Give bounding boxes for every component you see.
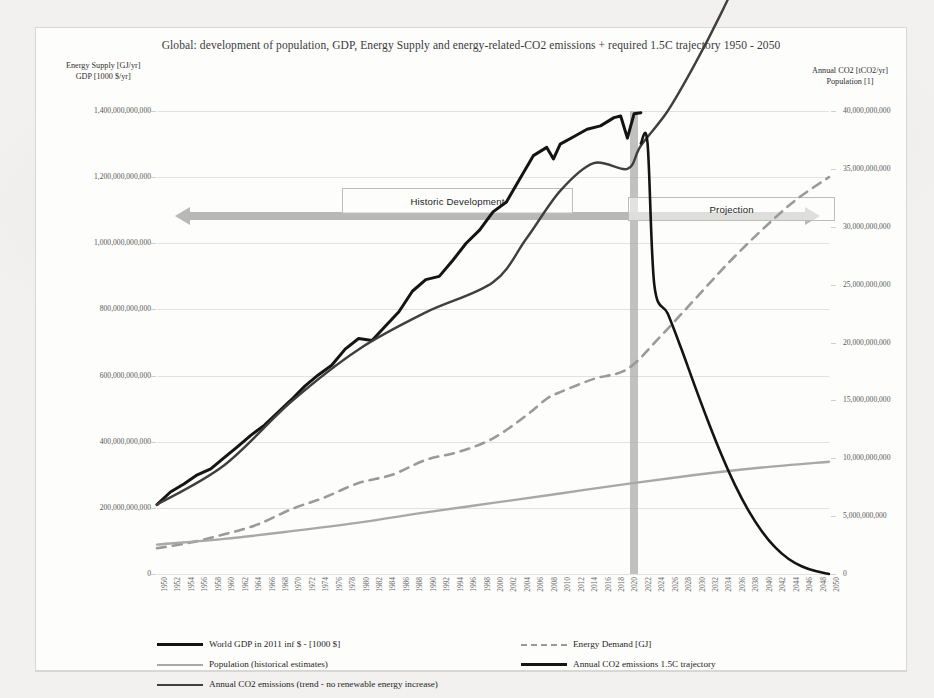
left-tick-label: 600,000,000,000 <box>46 371 151 380</box>
x-tick-label: 1976 <box>335 577 344 592</box>
x-tick-label: 1956 <box>200 577 209 592</box>
right-tick-label: 0 <box>843 569 847 578</box>
legend-item-gdp: World GDP in 2011 inf $ - [1000 $] <box>157 640 340 649</box>
legend-label-co2-15c: Annual CO2 emissions 1.5C trajectory <box>573 660 716 669</box>
legend-item-co2-15c: Annual CO2 emissions 1.5C trajectory <box>521 660 716 669</box>
x-tick-label: 1974 <box>321 577 330 592</box>
left-tick-mark <box>151 442 156 443</box>
x-tick-label: 1992 <box>442 577 451 592</box>
legend-label-population: Population (historical estimates) <box>209 660 328 669</box>
card-bottom-divider <box>36 670 906 671</box>
x-tick-label: 1954 <box>187 577 196 592</box>
x-tick-label: 2038 <box>751 577 760 592</box>
right-tick-label: 10,000,000,000 <box>843 453 890 462</box>
x-tick-label: 2042 <box>778 577 787 592</box>
x-tick-label: 2032 <box>711 577 720 592</box>
right-tick-mark <box>831 574 836 575</box>
series-lines <box>157 111 829 574</box>
series-co2-15c-trajectory <box>641 133 829 574</box>
x-tick-label: 2040 <box>765 577 774 592</box>
right-tick-mark <box>831 458 836 459</box>
left-axis-caption-line2: GDP [1000 $/yr] <box>66 71 140 82</box>
x-tick-label: 1962 <box>241 577 250 592</box>
x-tick-label: 2008 <box>550 577 559 592</box>
x-tick-label: 1958 <box>214 577 223 592</box>
right-tick-label: 35,000,000,000 <box>843 164 890 173</box>
x-tick-label: 2044 <box>792 577 801 592</box>
gridline <box>157 574 829 575</box>
x-tick-label: 2048 <box>819 577 828 592</box>
x-tick-label: 2000 <box>496 577 505 592</box>
x-tick-label: 2036 <box>738 577 747 592</box>
x-tick-label: 2010 <box>563 577 572 592</box>
x-tick-label: 2018 <box>617 577 626 592</box>
x-tick-label: 1998 <box>483 577 492 592</box>
x-tick-label: 2026 <box>671 577 680 592</box>
left-tick-label: 1,400,000,000,000 <box>46 106 151 115</box>
x-tick-label: 1980 <box>362 577 371 592</box>
x-tick-label: 2020 <box>630 577 639 592</box>
x-tick-label: 1990 <box>429 577 438 592</box>
left-tick-mark <box>151 574 156 575</box>
right-tick-label: 30,000,000,000 <box>843 222 890 231</box>
x-tick-label: 1986 <box>402 577 411 592</box>
x-tick-label: 1966 <box>268 577 277 592</box>
chart-card: Global: development of population, GDP, … <box>35 27 907 672</box>
left-tick-label: 1,200,000,000,000 <box>46 172 151 181</box>
x-tick-label: 2046 <box>805 577 814 592</box>
right-tick-mark <box>831 400 836 401</box>
x-tick-label: 1996 <box>469 577 478 592</box>
right-tick-mark <box>831 343 836 344</box>
left-tick-mark <box>151 243 156 244</box>
legend-label-co2-trend: Annual CO2 emissions (trend - no renewab… <box>209 680 438 689</box>
legend-item-energy-demand: Energy Demand [GJ] <box>521 640 651 649</box>
right-axis-caption-line2: Population [1] <box>812 76 888 87</box>
x-tick-label: 2014 <box>590 577 599 592</box>
left-tick-mark <box>151 111 156 112</box>
right-tick-label: 15,000,000,000 <box>843 395 890 404</box>
right-tick-label: 5,000,000,000 <box>843 511 887 520</box>
right-axis-caption-line1: Annual CO2 [tCO2/yr] <box>812 65 888 76</box>
x-tick-label: 1978 <box>348 577 357 592</box>
x-tick-label: 2050 <box>832 577 841 592</box>
x-tick-label: 2006 <box>536 577 545 592</box>
x-tick-label: 1972 <box>308 577 317 592</box>
left-tick-label: 400,000,000,000 <box>46 437 151 446</box>
right-tick-mark <box>831 169 836 170</box>
x-axis-tick-labels: 1950195219541956195819601962196419661968… <box>157 577 829 623</box>
x-tick-label: 2024 <box>657 577 666 592</box>
right-tick-mark <box>831 227 836 228</box>
x-tick-label: 2030 <box>698 577 707 592</box>
x-tick-label: 2002 <box>509 577 518 592</box>
legend-swatch-co2-15c-icon <box>521 663 567 666</box>
x-tick-label: 1968 <box>281 577 290 592</box>
x-tick-label: 1994 <box>456 577 465 592</box>
series-population <box>157 462 829 545</box>
legend-label-energy-demand: Energy Demand [GJ] <box>573 640 651 649</box>
x-tick-label: 2034 <box>724 577 733 592</box>
left-tick-mark <box>151 508 156 509</box>
legend-swatch-population-icon <box>157 664 203 666</box>
legend-swatch-co2-trend-icon <box>157 684 203 686</box>
chart-title: Global: development of population, GDP, … <box>36 39 906 51</box>
left-axis-caption: Energy Supply [GJ/yr] GDP [1000 $/yr] <box>66 60 140 82</box>
x-tick-label: 1960 <box>227 577 236 592</box>
left-tick-mark <box>151 376 156 377</box>
left-tick-mark <box>151 177 156 178</box>
x-tick-label: 1950 <box>160 577 169 592</box>
left-tick-label: 1,000,000,000,000 <box>46 238 151 247</box>
x-tick-label: 1952 <box>173 577 182 592</box>
legend-swatch-energy-demand-icon <box>521 644 567 646</box>
x-tick-label: 1988 <box>415 577 424 592</box>
legend-label-gdp: World GDP in 2011 inf $ - [1000 $] <box>209 640 340 649</box>
legend-item-population: Population (historical estimates) <box>157 660 328 669</box>
x-tick-label: 1984 <box>388 577 397 592</box>
legend-item-co2-trend: Annual CO2 emissions (trend - no renewab… <box>157 680 438 689</box>
x-tick-label: 1964 <box>254 577 263 592</box>
x-tick-label: 1982 <box>375 577 384 592</box>
left-tick-mark <box>151 309 156 310</box>
left-axis-caption-line1: Energy Supply [GJ/yr] <box>66 60 140 71</box>
x-tick-label: 2012 <box>577 577 586 592</box>
left-tick-label: 0 <box>46 569 151 578</box>
left-tick-label: 200,000,000,000 <box>46 503 151 512</box>
